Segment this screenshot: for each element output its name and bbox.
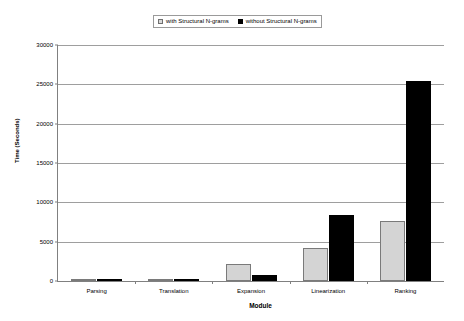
bar-chart: with Structural N-grams without Structur… xyxy=(0,0,464,321)
legend-swatch-icon-series-b xyxy=(238,19,243,24)
x-axis-title: Module xyxy=(0,302,464,310)
y-axis-tick-label: 0 xyxy=(50,278,53,285)
bar[interactable] xyxy=(226,264,251,281)
y-axis-tick-label: 5000 xyxy=(40,238,53,245)
x-axis-category-label: Linearization xyxy=(311,287,345,295)
y-axis-tick-label: 30000 xyxy=(36,42,53,49)
bar[interactable] xyxy=(174,279,199,281)
bar-group: Translation xyxy=(135,45,212,281)
y-axis-title: Time (Seconds) xyxy=(14,118,21,163)
bar-group: Parsing xyxy=(58,45,135,281)
y-axis-tick-label: 15000 xyxy=(36,160,53,167)
chart-legend: with Structural N-grams without Structur… xyxy=(153,15,322,28)
legend-swatch-icon-series-a xyxy=(158,19,163,24)
bar-groups: ParsingTranslationExpansionLinearization… xyxy=(58,45,444,281)
bar[interactable] xyxy=(303,248,328,281)
legend-label-series-b: without Structural N-grams xyxy=(246,17,317,25)
bar-group: Expansion xyxy=(212,45,289,281)
y-axis-tick-label: 25000 xyxy=(36,81,53,88)
legend-label-series-a: with Structural N-grams xyxy=(166,17,229,25)
bar[interactable] xyxy=(380,221,405,281)
bar[interactable] xyxy=(97,279,122,281)
x-axis-category-label: Translation xyxy=(159,287,188,295)
bar-group: Ranking xyxy=(367,45,444,281)
y-axis-tick-label: 10000 xyxy=(36,199,53,206)
bar[interactable] xyxy=(329,215,354,281)
y-axis-tick-label: 20000 xyxy=(36,120,53,127)
bar[interactable] xyxy=(252,275,277,281)
bar-group: Linearization xyxy=(290,45,367,281)
x-axis-category-label: Expansion xyxy=(237,287,265,295)
legend-entry-with-structural-ngrams: with Structural N-grams xyxy=(158,17,229,25)
bar[interactable] xyxy=(406,81,431,281)
legend-entry-without-structural-ngrams: without Structural N-grams xyxy=(238,17,317,25)
x-axis-category-label: Ranking xyxy=(394,287,416,295)
bar[interactable] xyxy=(71,279,96,281)
x-axis-category-label: Parsing xyxy=(86,287,106,295)
bar[interactable] xyxy=(148,279,173,281)
plot-area: 050001000015000200002500030000 ParsingTr… xyxy=(57,45,444,282)
